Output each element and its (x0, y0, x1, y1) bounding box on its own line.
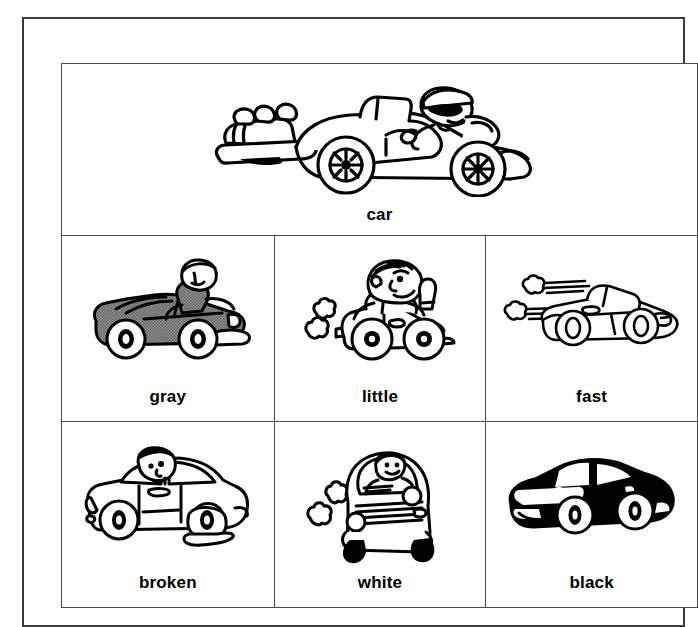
cell-car[interactable]: car (62, 64, 697, 235)
word-label-car: car (366, 206, 392, 235)
illustration-gray-car (62, 236, 274, 388)
word-label-fast: fast (576, 388, 607, 421)
cell-broken[interactable]: broken (62, 422, 274, 607)
cell-little[interactable]: little (274, 236, 486, 421)
cell-white-car[interactable]: white (274, 422, 486, 607)
illustration-fast-car (486, 236, 697, 388)
illustration-black-car (486, 422, 697, 574)
word-row-1: gray (62, 235, 697, 421)
illustration-broken-car (62, 422, 274, 574)
illustration-car (62, 64, 697, 206)
illustration-white-car (275, 422, 486, 574)
illustration-little-car (275, 236, 486, 388)
cell-fast[interactable]: fast (485, 236, 697, 421)
word-label-white: white (358, 574, 402, 607)
headword-row: car (62, 64, 697, 235)
worksheet-outer-frame: car (22, 17, 685, 627)
word-row-2: broken (62, 421, 697, 607)
vocabulary-picture-grid: car (61, 63, 698, 608)
word-label-black: black (569, 574, 613, 607)
word-label-broken: broken (139, 574, 197, 607)
word-label-gray: gray (149, 388, 186, 421)
cell-gray[interactable]: gray (62, 236, 274, 421)
word-label-little: little (362, 388, 398, 421)
cell-black-car[interactable]: black (485, 422, 697, 607)
